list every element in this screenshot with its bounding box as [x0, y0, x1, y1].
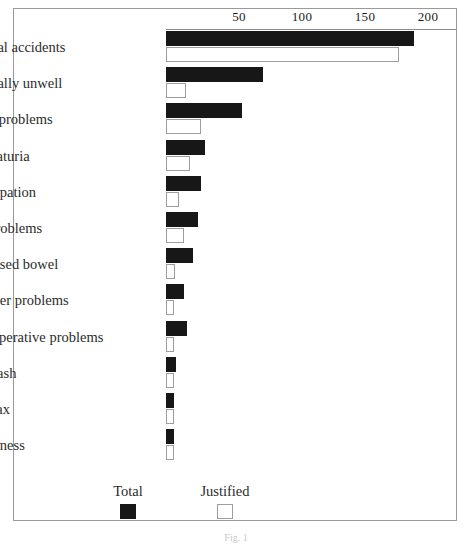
- bar-justified: [166, 409, 174, 424]
- category-label: Constipation: [0, 183, 172, 201]
- bar-justified: [166, 228, 184, 243]
- category-label: Loneliness: [0, 436, 172, 454]
- bar-total: [166, 284, 184, 299]
- category-label: Haematuria: [0, 147, 172, 165]
- category-label: Skin rash: [0, 364, 172, 382]
- chart-legend: Total Justified: [0, 483, 472, 528]
- chart-row: Chest problems: [0, 102, 472, 138]
- category-label: Chest problems: [0, 110, 172, 128]
- category-label: Eye problems: [0, 219, 172, 237]
- chart-row: General accidents: [0, 30, 472, 66]
- x-tick-label: 150: [345, 10, 385, 24]
- chart-row: Eye problems: [0, 211, 472, 247]
- bar-justified: [166, 83, 186, 98]
- chart-row: Post-operative problems: [0, 320, 472, 356]
- category-label: Post-operative problems: [0, 328, 172, 346]
- chart-row: Prolapsed bowel: [0, 247, 472, 283]
- bar-justified: [166, 445, 174, 460]
- bar-total: [166, 393, 174, 408]
- bar-total: [166, 31, 414, 46]
- legend-swatch-total-icon: [120, 504, 136, 519]
- bar-total: [166, 176, 201, 191]
- bar-justified: [166, 300, 174, 315]
- bar-justified: [166, 373, 174, 388]
- chart-row: Loneliness: [0, 428, 472, 464]
- bar-total: [166, 67, 263, 82]
- bar-total: [166, 103, 242, 118]
- chart-row: Generally unwell: [0, 66, 472, 102]
- bar-total: [166, 357, 176, 372]
- bar-total: [166, 212, 198, 227]
- x-tick-label: 50: [219, 10, 259, 24]
- category-label: Prolapsed bowel: [0, 255, 172, 273]
- chart-row: Constipation: [0, 175, 472, 211]
- chart-row: Haematuria: [0, 139, 472, 175]
- legend-label: Total: [73, 483, 183, 500]
- chart-row: Ear wax: [0, 392, 472, 428]
- x-tick-label: 100: [282, 10, 322, 24]
- category-label: General accidents: [0, 38, 172, 56]
- bar-total: [166, 140, 205, 155]
- x-tick-label: 200: [408, 10, 448, 24]
- category-label: Catheter problems: [0, 291, 172, 309]
- plot-area: General accidentsGenerally unwellChest p…: [0, 30, 472, 470]
- bar-justified: [166, 156, 190, 171]
- bar-justified: [166, 119, 201, 134]
- bar-justified: [166, 264, 175, 279]
- chart-row: Catheter problems: [0, 283, 472, 319]
- figure: 50 100 150 200 General accidentsGenerall…: [0, 0, 472, 545]
- category-label: Ear wax: [0, 400, 172, 418]
- bar-justified: [166, 192, 179, 207]
- category-label: Generally unwell: [0, 74, 172, 92]
- bar-justified: [166, 47, 399, 62]
- legend-item-justified: Justified: [170, 483, 280, 523]
- bar-total: [166, 321, 187, 336]
- chart-row: Skin rash: [0, 356, 472, 392]
- bar-justified: [166, 337, 174, 352]
- bar-total: [166, 429, 174, 444]
- legend-item-total: Total: [73, 483, 183, 523]
- figure-caption: Fig. 1: [0, 532, 472, 544]
- legend-swatch-justified-icon: [217, 504, 233, 519]
- legend-label: Justified: [170, 483, 280, 500]
- bar-total: [166, 248, 193, 263]
